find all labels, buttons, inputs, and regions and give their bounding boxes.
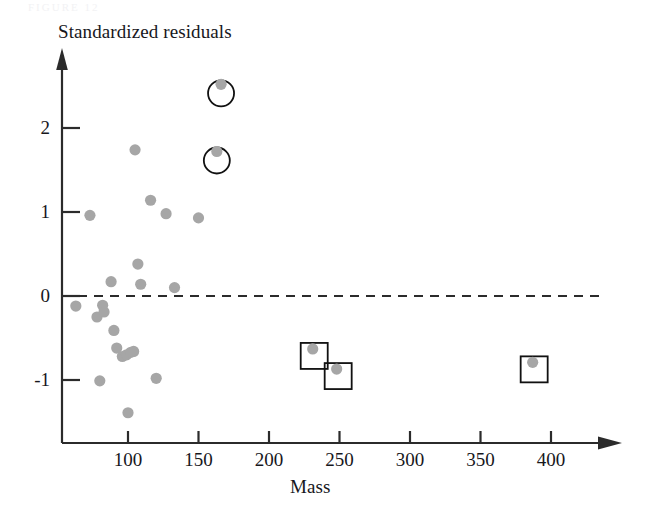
data-point [105,276,116,287]
data-point [527,357,538,368]
x-tick-label: 350 [466,449,495,471]
y-tick-label: 2 [14,117,50,139]
data-point [145,195,156,206]
data-points-group [70,79,547,419]
y-tick-label: 0 [14,285,50,307]
data-point [128,346,139,357]
x-tick-label: 250 [325,449,354,471]
x-tick-label: 100 [114,449,143,471]
data-point [193,212,204,223]
data-point [215,79,226,90]
data-point [151,373,162,384]
data-point [122,407,133,418]
x-tick-label: 400 [537,449,566,471]
data-point [84,210,95,221]
y-axis-arrow-icon [56,48,68,70]
x-axis-arrow-icon [598,436,622,449]
data-point [211,146,222,157]
y-tick-label: -1 [14,369,50,391]
x-tick-label: 200 [255,449,284,471]
x-tick-label: 150 [184,449,213,471]
data-point [331,363,342,374]
scatter-plot-figure: FIGURE 12 Standardized residuals Mass 10… [0,0,648,519]
data-point [94,375,105,386]
data-point [307,343,318,354]
plot-canvas [0,0,648,519]
data-point [169,282,180,293]
data-point [129,144,140,155]
data-point [160,208,171,219]
data-point [108,325,119,336]
data-point [70,300,81,311]
data-point [98,306,109,317]
x-tick-label: 300 [396,449,425,471]
data-point [135,279,146,290]
data-point [132,258,143,269]
y-tick-label: 1 [14,201,50,223]
